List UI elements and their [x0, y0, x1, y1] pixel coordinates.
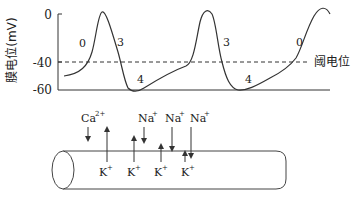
action-potential-curve	[64, 8, 330, 91]
y-axis-label: 膜电位(mV)	[4, 17, 19, 82]
na-ion-label-3: Na +	[190, 110, 210, 125]
svg-text:2+: 2+	[95, 110, 105, 118]
na-influx-arrow-icon-3	[188, 127, 194, 159]
k-efflux-arrow-icon-2	[131, 135, 137, 162]
k-efflux-arrow-icon-4	[182, 150, 188, 162]
tick-minus60: -60	[33, 83, 52, 97]
action-potential-diagram: 0 -40 -60 膜电位(mV) 阈电位 0 3 4 3 4 0 Ca 2+ …	[0, 0, 354, 199]
svg-text:+: +	[135, 164, 141, 172]
svg-text:+: +	[179, 110, 185, 118]
y-axis: 0 -40 -60 膜电位(mV)	[4, 8, 62, 97]
tick-0: 0	[44, 8, 52, 22]
na-ion-label-1: Na +	[138, 110, 158, 125]
cell-membrane-tube	[52, 151, 286, 189]
k-efflux-arrow-icon-1	[104, 126, 110, 162]
k-efflux-arrow-icon-3	[158, 143, 164, 162]
k-ion-label-2: K +	[127, 164, 141, 179]
k-ion-label-4: K +	[181, 164, 195, 179]
k-ion-label-3: K +	[154, 164, 168, 179]
na-influx-arrow-icon-2	[169, 127, 175, 152]
tick-minus40: -40	[33, 56, 52, 70]
phase-3-label-1: 3	[117, 36, 124, 49]
svg-text:+: +	[204, 110, 210, 118]
phase-0-label-2: 0	[296, 36, 303, 49]
svg-text:+: +	[152, 110, 158, 118]
threshold-label: 阈电位	[314, 54, 350, 69]
ca-influx-arrow-icon	[85, 127, 91, 142]
svg-text:+: +	[107, 164, 113, 172]
na-ion-label-2: Na +	[165, 110, 185, 125]
k-ion-label-1: K +	[99, 164, 113, 179]
phase-3-label-2: 3	[223, 36, 230, 49]
svg-text:+: +	[189, 164, 195, 172]
phase-4-label-2: 4	[245, 73, 252, 86]
phase-4-label-1: 4	[137, 73, 144, 86]
svg-text:+: +	[162, 164, 168, 172]
na-influx-arrow-icon-1	[141, 127, 147, 144]
phase-0-label-1: 0	[79, 37, 86, 50]
ca-ion-label: Ca 2+	[81, 110, 105, 125]
